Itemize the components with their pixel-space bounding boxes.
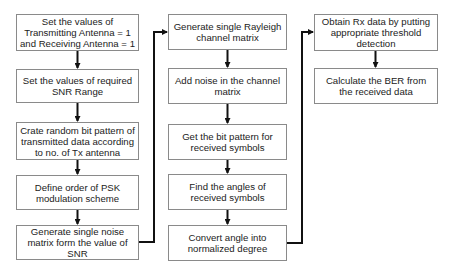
connector-arrows xyxy=(0,0,451,277)
